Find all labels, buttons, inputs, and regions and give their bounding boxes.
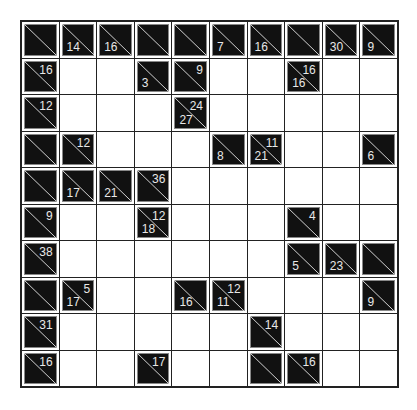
across-clue: 5 xyxy=(84,283,91,295)
entry-cell[interactable] xyxy=(172,132,209,168)
down-clue: 5 xyxy=(292,260,299,272)
clue-cell xyxy=(22,132,59,168)
entry-cell[interactable] xyxy=(97,351,134,387)
clue-cell: 1218 xyxy=(135,205,172,241)
entry-cell[interactable] xyxy=(360,314,397,350)
entry-cell[interactable] xyxy=(210,95,247,131)
entry-cell[interactable] xyxy=(210,168,247,204)
entry-cell[interactable] xyxy=(248,241,285,277)
across-clue: 12 xyxy=(39,100,52,112)
down-clue: 30 xyxy=(330,41,343,53)
entry-cell[interactable] xyxy=(323,314,360,350)
across-clue: 9 xyxy=(46,210,53,222)
clue-cell: 1121 xyxy=(248,132,285,168)
entry-cell[interactable] xyxy=(360,205,397,241)
clue-cell: 5 xyxy=(285,241,322,277)
clue-cell: 16 xyxy=(97,22,134,58)
entry-cell[interactable] xyxy=(97,59,134,95)
entry-cell[interactable] xyxy=(135,278,172,314)
entry-cell[interactable] xyxy=(60,314,97,350)
entry-cell[interactable] xyxy=(285,168,322,204)
entry-cell[interactable] xyxy=(360,59,397,95)
entry-cell[interactable] xyxy=(323,95,360,131)
clue-cell: 9 xyxy=(172,59,209,95)
clue-cell: 1211 xyxy=(210,278,247,314)
clue-cell: 31 xyxy=(22,314,59,350)
entry-cell[interactable] xyxy=(285,132,322,168)
entry-cell[interactable] xyxy=(210,241,247,277)
entry-cell[interactable] xyxy=(210,59,247,95)
clue-cell: 36 xyxy=(135,168,172,204)
clue-cell: 9 xyxy=(22,205,59,241)
entry-cell[interactable] xyxy=(323,59,360,95)
entry-cell[interactable] xyxy=(172,241,209,277)
diagonal-divider-icon xyxy=(362,243,395,275)
entry-cell[interactable] xyxy=(323,132,360,168)
entry-cell[interactable] xyxy=(210,205,247,241)
entry-cell[interactable] xyxy=(248,278,285,314)
entry-cell[interactable] xyxy=(248,95,285,131)
kakuro-board: 1416716309163916161224271281121617213691… xyxy=(20,20,399,388)
entry-cell[interactable] xyxy=(248,168,285,204)
clue-cell: 30 xyxy=(323,22,360,58)
entry-cell[interactable] xyxy=(135,95,172,131)
entry-cell[interactable] xyxy=(248,205,285,241)
entry-cell[interactable] xyxy=(323,278,360,314)
clue-cell: 3 xyxy=(135,59,172,95)
down-clue: 16 xyxy=(292,77,305,89)
clue-cell: 23 xyxy=(323,241,360,277)
down-clue: 9 xyxy=(367,296,374,308)
across-clue: 16 xyxy=(302,356,315,368)
down-clue: 17 xyxy=(67,296,80,308)
entry-cell[interactable] xyxy=(360,351,397,387)
clue-cell xyxy=(172,22,209,58)
clue-cell: 16 xyxy=(248,22,285,58)
entry-cell[interactable] xyxy=(248,59,285,95)
across-clue: 12 xyxy=(227,283,240,295)
entry-cell[interactable] xyxy=(60,205,97,241)
entry-cell[interactable] xyxy=(97,314,134,350)
clue-cell: 4 xyxy=(285,205,322,241)
entry-cell[interactable] xyxy=(60,59,97,95)
entry-cell[interactable] xyxy=(97,278,134,314)
across-clue: 38 xyxy=(39,246,52,258)
entry-cell[interactable] xyxy=(97,205,134,241)
entry-cell[interactable] xyxy=(60,351,97,387)
clue-cell xyxy=(360,241,397,277)
across-clue: 12 xyxy=(152,210,165,222)
across-clue: 9 xyxy=(196,64,203,76)
down-clue: 18 xyxy=(142,223,155,235)
entry-cell[interactable] xyxy=(210,351,247,387)
entry-cell[interactable] xyxy=(97,132,134,168)
entry-cell[interactable] xyxy=(285,314,322,350)
entry-cell[interactable] xyxy=(135,241,172,277)
entry-cell[interactable] xyxy=(323,205,360,241)
entry-cell[interactable] xyxy=(360,95,397,131)
entry-cell[interactable] xyxy=(172,205,209,241)
clue-cell: 8 xyxy=(210,132,247,168)
entry-cell[interactable] xyxy=(60,241,97,277)
clue-cell: 2427 xyxy=(172,95,209,131)
entry-cell[interactable] xyxy=(285,95,322,131)
across-clue: 17 xyxy=(152,356,165,368)
entry-cell[interactable] xyxy=(60,95,97,131)
entry-cell[interactable] xyxy=(323,351,360,387)
entry-cell[interactable] xyxy=(172,351,209,387)
clue-cell xyxy=(22,168,59,204)
across-clue: 24 xyxy=(190,100,203,112)
clue-cell: 1616 xyxy=(285,59,322,95)
entry-cell[interactable] xyxy=(360,168,397,204)
entry-cell[interactable] xyxy=(210,314,247,350)
clue-cell: 16 xyxy=(22,351,59,387)
entry-cell[interactable] xyxy=(97,95,134,131)
entry-cell[interactable] xyxy=(323,168,360,204)
clue-cell xyxy=(22,22,59,58)
entry-cell[interactable] xyxy=(97,241,134,277)
down-clue: 27 xyxy=(179,114,192,126)
entry-cell[interactable] xyxy=(135,314,172,350)
entry-cell[interactable] xyxy=(135,132,172,168)
entry-cell[interactable] xyxy=(172,314,209,350)
diagonal-divider-icon xyxy=(24,134,57,166)
entry-cell[interactable] xyxy=(285,278,322,314)
entry-cell[interactable] xyxy=(172,168,209,204)
